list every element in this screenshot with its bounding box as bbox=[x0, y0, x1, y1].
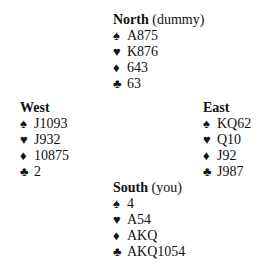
clubs-holding: ♣2 bbox=[20, 164, 69, 180]
heart-icon: ♥ bbox=[203, 132, 217, 148]
club-icon: ♣ bbox=[20, 164, 34, 180]
cards: A875 bbox=[127, 28, 158, 43]
cards: 2 bbox=[34, 164, 41, 179]
cards: KQ62 bbox=[217, 116, 251, 131]
cards: J987 bbox=[217, 164, 243, 179]
cards: 10875 bbox=[34, 148, 69, 163]
cards: K876 bbox=[127, 44, 158, 59]
cards: 63 bbox=[127, 76, 141, 91]
clubs-holding: ♣J987 bbox=[203, 164, 251, 180]
north-hand: North (dummy) ♠A875 ♥K876 ♦643 ♣63 bbox=[113, 12, 204, 92]
clubs-holding: ♣AKQ1054 bbox=[113, 244, 185, 260]
heart-icon: ♥ bbox=[113, 44, 127, 60]
spade-icon: ♠ bbox=[203, 116, 217, 132]
hearts-holding: ♥K876 bbox=[113, 44, 204, 60]
hand-name: West bbox=[20, 100, 50, 115]
cards: 4 bbox=[127, 196, 134, 211]
cards: J1093 bbox=[34, 116, 67, 131]
diamond-icon: ♦ bbox=[20, 148, 34, 164]
heart-icon: ♥ bbox=[113, 212, 127, 228]
hearts-holding: ♥J932 bbox=[20, 132, 69, 148]
hand-title: South (you) bbox=[113, 180, 185, 196]
cards: J932 bbox=[34, 132, 60, 147]
diamond-icon: ♦ bbox=[113, 228, 127, 244]
spades-holding: ♠KQ62 bbox=[203, 116, 251, 132]
south-hand: South (you) ♠4 ♥A54 ♦AKQ ♣AKQ1054 bbox=[113, 180, 185, 260]
hand-title: West bbox=[20, 100, 69, 116]
hand-name: North bbox=[113, 12, 149, 27]
diamonds-holding: ♦J92 bbox=[203, 148, 251, 164]
diamond-icon: ♦ bbox=[203, 148, 217, 164]
hand-title: North (dummy) bbox=[113, 12, 204, 28]
hand-name: East bbox=[203, 100, 229, 115]
diamonds-holding: ♦643 bbox=[113, 60, 204, 76]
cards: AKQ1054 bbox=[127, 244, 185, 259]
spade-icon: ♠ bbox=[113, 28, 127, 44]
spade-icon: ♠ bbox=[20, 116, 34, 132]
spades-holding: ♠J1093 bbox=[20, 116, 69, 132]
hearts-holding: ♥A54 bbox=[113, 212, 185, 228]
club-icon: ♣ bbox=[113, 244, 127, 260]
west-hand: West ♠J1093 ♥J932 ♦10875 ♣2 bbox=[20, 100, 69, 180]
cards: 643 bbox=[127, 60, 148, 75]
cards: J92 bbox=[217, 148, 236, 163]
club-icon: ♣ bbox=[113, 76, 127, 92]
cards: Q10 bbox=[217, 132, 241, 147]
diamonds-holding: ♦10875 bbox=[20, 148, 69, 164]
cards: A54 bbox=[127, 212, 151, 227]
east-hand: East ♠KQ62 ♥Q10 ♦J92 ♣J987 bbox=[203, 100, 251, 180]
spades-holding: ♠A875 bbox=[113, 28, 204, 44]
diamond-icon: ♦ bbox=[113, 60, 127, 76]
clubs-holding: ♣63 bbox=[113, 76, 204, 92]
diamonds-holding: ♦AKQ bbox=[113, 228, 185, 244]
spades-holding: ♠4 bbox=[113, 196, 185, 212]
cards: AKQ bbox=[127, 228, 157, 243]
hearts-holding: ♥Q10 bbox=[203, 132, 251, 148]
hand-name: South bbox=[113, 180, 148, 195]
club-icon: ♣ bbox=[203, 164, 217, 180]
spade-icon: ♠ bbox=[113, 196, 127, 212]
heart-icon: ♥ bbox=[20, 132, 34, 148]
hand-role: (you) bbox=[152, 180, 182, 195]
hand-title: East bbox=[203, 100, 251, 116]
hand-role: (dummy) bbox=[152, 12, 204, 27]
